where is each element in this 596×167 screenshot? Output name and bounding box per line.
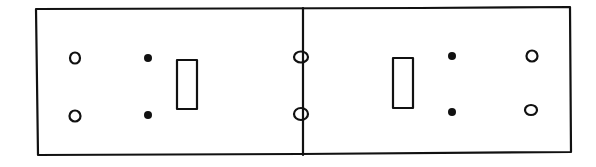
- center-hole-bottom-icon: [294, 108, 308, 120]
- right-toggle-slot: [393, 58, 413, 108]
- diagram-svg: [0, 0, 596, 167]
- left-screw-hole-top-icon: [70, 53, 80, 64]
- right-dot-top-icon: [448, 52, 456, 60]
- right-screw-hole-top-icon: [527, 51, 538, 62]
- left-screw-hole-bottom-icon: [70, 111, 81, 122]
- left-toggle-slot: [177, 60, 197, 109]
- center-hole-top-icon: [294, 52, 308, 63]
- left-dot-top-icon: [144, 54, 152, 62]
- right-screw-hole-bottom-icon: [525, 105, 537, 115]
- right-dot-bottom-icon: [448, 108, 456, 116]
- switch-plates-diagram: [0, 0, 596, 167]
- left-dot-bottom-icon: [144, 111, 152, 119]
